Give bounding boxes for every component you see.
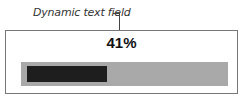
progress-bar-fill	[27, 66, 107, 82]
progress-percent-text: 41%	[0, 34, 243, 51]
